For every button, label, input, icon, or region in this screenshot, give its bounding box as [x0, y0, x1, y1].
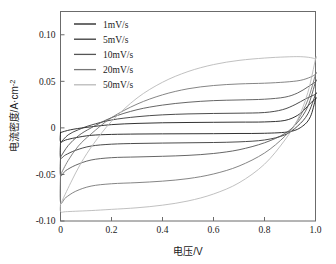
x-tick-label: 0.2: [106, 225, 118, 235]
legend-label-50mvs: 50mV/s: [103, 80, 133, 90]
legend-label-5mvs: 5mV/s: [103, 35, 129, 45]
y-axis-ticks: [61, 35, 65, 221]
y-tick-label: 0.10: [39, 30, 56, 40]
x-tick-label: 0.4: [157, 225, 169, 235]
cv-chart-figure: 00.20.40.60.81.0 0.100.050-0.05-0.10 1mV…: [0, 0, 336, 264]
x-tick-label: 0.6: [208, 225, 220, 235]
y-axis-title: 电流密度/A·cm-2: [8, 80, 21, 153]
x-tick-label: 1.0: [310, 225, 322, 235]
cv-curve-20mvs: [60, 72, 316, 203]
x-tick-label: 0: [58, 225, 63, 235]
y-tick-label: 0.05: [39, 77, 56, 87]
chart-canvas: 00.20.40.60.81.0 0.100.050-0.05-0.10 1mV…: [0, 0, 336, 264]
legend-label-1mvs: 1mV/s: [103, 20, 129, 30]
cv-curve-50mvs: [60, 57, 316, 213]
x-axis-tick-labels: 00.20.40.60.81.0: [58, 225, 322, 235]
legend-label-10mvs: 10mV/s: [103, 50, 133, 60]
chart-legend: 1mV/s5mV/s10mV/s20mV/s50mV/s: [74, 20, 133, 91]
x-axis-ticks: [61, 217, 316, 221]
y-axis-tick-labels: 0.100.050-0.05-0.10: [36, 30, 56, 226]
x-axis-title: 电压/V: [173, 245, 203, 257]
cv-curves-group: [60, 57, 316, 213]
x-tick-label: 0.8: [259, 225, 271, 235]
y-axis-title-group: 电流密度/A·cm-2: [8, 80, 21, 153]
y-tick-label: -0.10: [36, 216, 56, 226]
y-tick-label: 0: [51, 123, 56, 133]
y-tick-label: -0.05: [36, 170, 56, 180]
legend-label-20mvs: 20mV/s: [103, 65, 133, 75]
cv-curve-1mvs: [60, 98, 316, 143]
plot-frame: [61, 12, 316, 222]
